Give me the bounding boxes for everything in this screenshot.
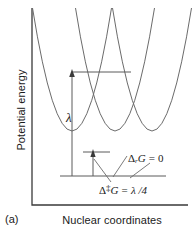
equals-sign: = [149,152,155,164]
activation-free-energy-label: Δ‡G = λ /4 [99,183,147,196]
reorganization-energy-label: λ [66,110,72,126]
plot-axes [32,8,188,205]
activation-arrow [90,149,95,176]
potential-energy-diagram [0,0,195,234]
y-axis-label: Potential energy [15,45,27,175]
activation-arrowhead [90,149,95,157]
free-energy-value: 0 [158,152,164,164]
parabola-group [33,8,192,131]
equals-sign-activation: = [122,184,128,196]
reaction-free-energy-label: ΔrG = 0 [128,152,164,165]
axis-lines [32,8,188,205]
panel-label: (a) [5,213,18,225]
gibbs-energy-symbol-activation: G [111,184,119,196]
drg-leader-line [113,156,127,177]
lambda-symbol: λ [66,110,72,125]
activation-energy-value: λ /4 [131,184,147,196]
marcus-potential-energy-figure: λ ΔrG = 0 Δ‡G = λ /4 Potential energy Nu… [0,0,195,234]
lambda-arrowhead [69,69,75,77]
gibbs-energy-symbol: G [138,152,146,164]
product-parabola-right [113,8,192,131]
activation-leader-line [94,159,111,182]
x-axis-label: Nuclear coordinates [32,214,192,226]
